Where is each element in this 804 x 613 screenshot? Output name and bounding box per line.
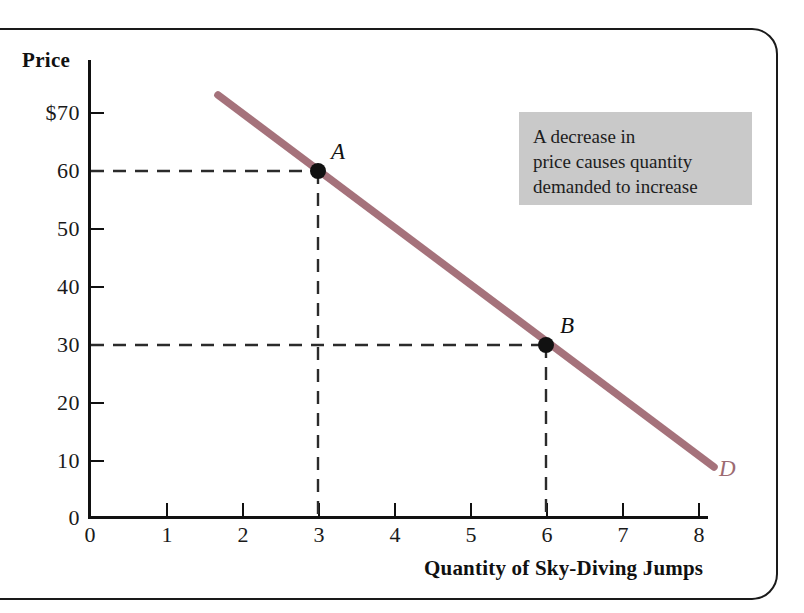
data-point-a — [310, 163, 326, 179]
annotation-box: A decrease in price causes quantity dema… — [519, 112, 752, 205]
figure-canvas: Price $70 60 50 40 30 20 10 0 0 1 2 3 4 — [0, 0, 804, 613]
annotation-line-1: A decrease in — [533, 124, 752, 149]
data-point-label-a: A — [331, 139, 345, 165]
demand-curve-label: D — [719, 456, 736, 482]
curve-layer — [0, 0, 804, 613]
annotation-line-3: demanded to increase — [533, 174, 752, 199]
data-point-b — [538, 337, 554, 353]
data-point-label-b: B — [560, 313, 574, 339]
plot-area: Price $70 60 50 40 30 20 10 0 0 1 2 3 4 — [0, 0, 804, 613]
annotation-line-2: price causes quantity — [533, 149, 752, 174]
